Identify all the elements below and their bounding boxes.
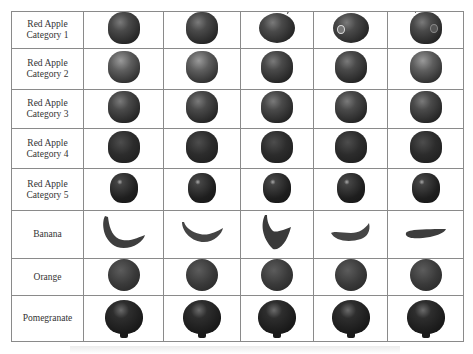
label-line-1: Red Apple bbox=[12, 98, 83, 109]
image-cell bbox=[241, 129, 314, 169]
red-apple-image bbox=[108, 91, 140, 123]
row-label: Red Apple Category 5 bbox=[12, 169, 84, 211]
red-apple-image bbox=[412, 173, 440, 203]
image-cell bbox=[164, 90, 241, 129]
row-label: Orange bbox=[12, 259, 84, 296]
red-apple-image bbox=[333, 13, 369, 43]
label-line-1: Red Apple bbox=[12, 138, 83, 149]
orange-image bbox=[186, 259, 218, 291]
image-cell bbox=[164, 49, 241, 90]
red-apple-image bbox=[186, 91, 218, 123]
red-apple-image bbox=[110, 173, 138, 203]
red-apple-image bbox=[410, 12, 442, 44]
image-cell bbox=[314, 49, 388, 90]
orange-image bbox=[410, 259, 442, 291]
banana-image bbox=[178, 218, 226, 248]
label-line-1: Red Apple bbox=[12, 19, 83, 30]
image-cell bbox=[388, 49, 464, 90]
red-apple-image bbox=[335, 51, 367, 83]
red-apple-image bbox=[335, 91, 367, 123]
table-row-orange: Orange bbox=[12, 259, 464, 296]
orange-image bbox=[261, 259, 293, 291]
red-apple-image bbox=[108, 12, 140, 44]
red-apple-image bbox=[188, 173, 216, 203]
image-cell bbox=[241, 169, 314, 211]
image-cell bbox=[84, 12, 164, 49]
red-apple-image bbox=[108, 51, 140, 83]
image-cell bbox=[84, 129, 164, 169]
table-row-red-apple-3: Red Apple Category 3 bbox=[12, 90, 464, 129]
label-line-1: Banana bbox=[12, 229, 83, 240]
red-apple-image bbox=[410, 131, 442, 163]
row-label: Red Apple Category 1 bbox=[12, 12, 84, 49]
red-apple-image bbox=[186, 131, 218, 163]
label-line-2: Category 2 bbox=[12, 69, 83, 80]
red-apple-image bbox=[261, 131, 293, 163]
image-cell bbox=[84, 296, 164, 342]
red-apple-image bbox=[263, 173, 291, 203]
image-cell bbox=[241, 296, 314, 342]
image-cell bbox=[314, 169, 388, 211]
label-line-2: Category 4 bbox=[12, 149, 83, 160]
table-row-red-apple-2: Red Apple Category 2 bbox=[12, 49, 464, 90]
label-line-1: Red Apple bbox=[12, 179, 83, 190]
image-cell bbox=[164, 211, 241, 259]
pomegranate-image bbox=[258, 300, 296, 334]
banana-image bbox=[404, 225, 448, 241]
image-cell bbox=[84, 90, 164, 129]
image-cell bbox=[241, 211, 314, 259]
image-cell bbox=[84, 49, 164, 90]
red-apple-image bbox=[337, 173, 365, 203]
table-row-red-apple-1: Red Apple Category 1 bbox=[12, 12, 464, 49]
row-label: Pomegranate bbox=[12, 296, 84, 342]
row-label: Red Apple Category 2 bbox=[12, 49, 84, 90]
image-cell bbox=[388, 169, 464, 211]
pomegranate-image bbox=[332, 300, 370, 334]
image-cell bbox=[388, 296, 464, 342]
figure-caption-cropped bbox=[70, 346, 400, 354]
red-apple-image bbox=[261, 51, 293, 83]
red-apple-image bbox=[410, 91, 442, 123]
table-row-red-apple-4: Red Apple Category 4 bbox=[12, 129, 464, 169]
image-cell bbox=[388, 90, 464, 129]
pomegranate-image bbox=[183, 300, 221, 334]
image-cell bbox=[164, 296, 241, 342]
image-cell bbox=[241, 12, 314, 49]
red-apple-image bbox=[186, 12, 218, 44]
table-row-banana: Banana bbox=[12, 211, 464, 259]
image-cell bbox=[388, 12, 464, 49]
image-cell bbox=[388, 211, 464, 259]
banana-image bbox=[257, 213, 297, 253]
image-cell bbox=[164, 129, 241, 169]
image-cell bbox=[314, 12, 388, 49]
image-cell bbox=[314, 296, 388, 342]
red-apple-image bbox=[186, 51, 218, 83]
label-line-2: Category 5 bbox=[12, 190, 83, 201]
image-cell bbox=[388, 259, 464, 296]
table-row-pomegranate: Pomegranate bbox=[12, 296, 464, 342]
image-cell bbox=[314, 211, 388, 259]
image-cell bbox=[241, 90, 314, 129]
label-line-1: Red Apple bbox=[12, 58, 83, 69]
row-label: Red Apple Category 3 bbox=[12, 90, 84, 129]
red-apple-image bbox=[108, 131, 140, 163]
orange-image bbox=[335, 259, 367, 291]
label-line-2: Category 3 bbox=[12, 109, 83, 120]
image-cell bbox=[314, 259, 388, 296]
image-cell bbox=[314, 90, 388, 129]
image-cell bbox=[84, 259, 164, 296]
image-cell bbox=[388, 129, 464, 169]
orange-image bbox=[108, 259, 140, 291]
row-label: Red Apple Category 4 bbox=[12, 129, 84, 169]
label-line-1: Pomegranate bbox=[12, 313, 83, 324]
image-cell bbox=[314, 129, 388, 169]
image-cell bbox=[84, 169, 164, 211]
red-apple-image bbox=[410, 51, 442, 83]
label-line-2: Category 1 bbox=[12, 30, 83, 41]
red-apple-image bbox=[335, 131, 367, 163]
label-line-1: Orange bbox=[12, 272, 83, 283]
red-apple-image bbox=[261, 91, 293, 123]
image-cell bbox=[84, 211, 164, 259]
image-cell bbox=[164, 259, 241, 296]
row-label: Banana bbox=[12, 211, 84, 259]
